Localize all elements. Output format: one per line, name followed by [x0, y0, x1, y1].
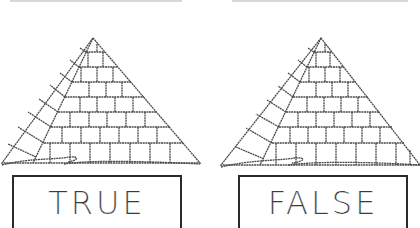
option-panel-false: FALSE [210, 0, 420, 228]
true-label: TRUE [48, 184, 145, 222]
false-button[interactable]: FALSE [238, 175, 408, 228]
pyramid-icon [0, 0, 210, 175]
false-label: FALSE [268, 184, 379, 222]
option-panel-true: TRUE [0, 0, 210, 228]
true-button[interactable]: TRUE [12, 175, 182, 228]
pyramid-icon [210, 0, 420, 175]
